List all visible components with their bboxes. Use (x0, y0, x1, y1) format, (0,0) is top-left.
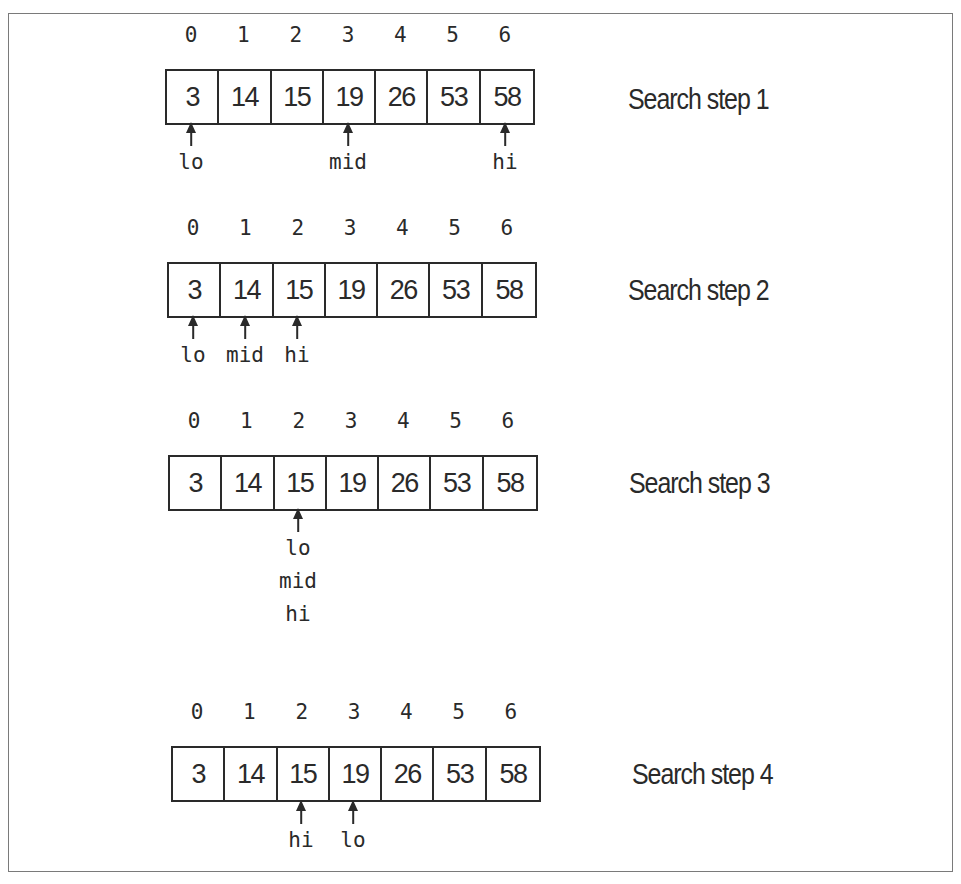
array-cell: 53 (431, 457, 483, 509)
index-label: 5 (429, 409, 481, 439)
array-cell: 58 (484, 457, 536, 509)
index-label: 4 (380, 700, 432, 730)
pointer-hi: hi (475, 122, 535, 179)
pointer-hi: hi (271, 800, 331, 857)
array-cell: 26 (378, 264, 430, 316)
index-row: 0 1 2 3 4 5 6 (168, 409, 534, 439)
index-label: 0 (168, 409, 220, 439)
pointer-label: lo (285, 532, 310, 565)
index-label: 0 (165, 23, 217, 53)
pointer-label: hi (285, 598, 310, 631)
index-label: 3 (324, 216, 376, 246)
pointer-label: lo (180, 339, 205, 372)
index-row: 0 1 2 3 4 5 6 (167, 216, 533, 246)
pointer-label: mid (279, 565, 317, 598)
up-arrow-icon (295, 800, 307, 824)
pointer-label: mid (329, 146, 367, 179)
pointer-label: hi (284, 339, 309, 372)
array-box: 3 14 15 19 26 53 58 (168, 455, 538, 511)
array-cell: 19 (326, 264, 378, 316)
array-cell: 14 (222, 457, 274, 509)
array-cell: 15 (272, 71, 324, 123)
pointer-label: lo (178, 146, 203, 179)
index-label: 0 (171, 700, 223, 730)
up-arrow-icon (499, 122, 511, 146)
index-label: 6 (479, 23, 531, 53)
array-cell: 53 (428, 71, 480, 123)
array-box: 3 14 15 19 26 53 58 (171, 746, 541, 802)
array-cell: 19 (327, 457, 379, 509)
array-cell: 26 (382, 748, 434, 800)
pointer-lo-mid-hi: lo mid hi (268, 508, 328, 631)
array-cell: 26 (376, 71, 428, 123)
up-arrow-icon (292, 508, 304, 532)
index-label: 0 (167, 216, 219, 246)
step-label: Search step 4 (632, 758, 772, 791)
index-label: 4 (377, 409, 429, 439)
array-cell: 19 (324, 71, 376, 123)
array-box: 3 14 15 19 26 53 58 (165, 69, 535, 125)
array-cell: 58 (481, 71, 533, 123)
index-label: 6 (481, 216, 533, 246)
up-arrow-icon (342, 122, 354, 146)
pointer-lo: lo (161, 122, 221, 179)
array-cell: 15 (274, 264, 326, 316)
array-cell: 19 (330, 748, 382, 800)
step-label: Search step 3 (629, 467, 769, 500)
step-label: Search step 2 (628, 274, 768, 307)
up-arrow-icon (347, 800, 359, 824)
array-cell: 3 (169, 264, 221, 316)
index-label: 1 (220, 409, 272, 439)
array-cell: 53 (434, 748, 486, 800)
index-label: 6 (482, 409, 534, 439)
index-label: 3 (328, 700, 380, 730)
array-cell: 15 (275, 457, 327, 509)
pointer-mid: mid (318, 122, 378, 179)
array-cell: 14 (225, 748, 277, 800)
pointer-label: hi (288, 824, 313, 857)
array-cell: 53 (430, 264, 482, 316)
pointer-lo: lo (323, 800, 383, 857)
index-label: 2 (276, 700, 328, 730)
array-cell: 3 (167, 71, 219, 123)
up-arrow-icon (291, 315, 303, 339)
pointer-label: lo (340, 824, 365, 857)
index-label: 5 (426, 23, 478, 53)
index-row: 0 1 2 3 4 5 6 (165, 23, 531, 53)
array-cell: 3 (170, 457, 222, 509)
pointer-mid: mid (215, 315, 275, 372)
up-arrow-icon (239, 315, 251, 339)
index-label: 5 (432, 700, 484, 730)
array-cell: 26 (379, 457, 431, 509)
index-label: 5 (428, 216, 480, 246)
array-box: 3 14 15 19 26 53 58 (167, 262, 537, 318)
index-label: 2 (272, 216, 324, 246)
index-label: 1 (219, 216, 271, 246)
pointer-hi: hi (267, 315, 327, 372)
up-arrow-icon (187, 315, 199, 339)
index-label: 2 (273, 409, 325, 439)
pointer-label: hi (492, 146, 517, 179)
index-label: 6 (485, 700, 537, 730)
array-cell: 14 (219, 71, 271, 123)
array-cell: 3 (173, 748, 225, 800)
index-label: 3 (322, 23, 374, 53)
up-arrow-icon (185, 122, 197, 146)
array-cell: 14 (221, 264, 273, 316)
array-cell: 58 (487, 748, 539, 800)
index-label: 1 (223, 700, 275, 730)
index-label: 4 (376, 216, 428, 246)
index-row: 0 1 2 3 4 5 6 (171, 700, 537, 730)
index-label: 1 (217, 23, 269, 53)
index-label: 2 (270, 23, 322, 53)
pointer-lo: lo (163, 315, 223, 372)
array-cell: 15 (278, 748, 330, 800)
array-cell: 58 (483, 264, 535, 316)
index-label: 3 (325, 409, 377, 439)
step-label: Search step 1 (628, 83, 768, 116)
pointer-label: mid (226, 339, 264, 372)
index-label: 4 (374, 23, 426, 53)
